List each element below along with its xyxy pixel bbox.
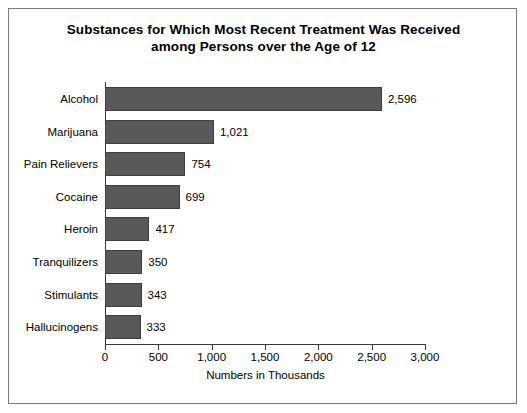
x-axis-tick	[372, 345, 373, 350]
category-label: Tranquilizers	[33, 250, 98, 274]
category-label: Heroin	[64, 217, 98, 241]
x-axis-tick-label: 500	[128, 351, 188, 363]
plot-area: Alcohol2,596Marijuana1,021Pain Relievers…	[105, 83, 425, 344]
bar-value-label: 699	[180, 185, 205, 209]
bar-value-label: 754	[185, 152, 210, 176]
x-axis-tick-label: 2,500	[342, 351, 402, 363]
bar-row: Stimulants343	[105, 279, 425, 312]
x-axis-title: Numbers in Thousands	[105, 369, 426, 381]
bar-value-label: 2,596	[382, 87, 417, 111]
category-label: Pain Relievers	[24, 152, 98, 176]
bar	[105, 250, 142, 274]
x-axis-tick	[425, 345, 426, 350]
chart-title: Substances for Which Most Recent Treatme…	[9, 21, 518, 55]
bar-row: Hallucinogens333	[105, 311, 425, 344]
bar	[105, 283, 142, 307]
bar-row: Cocaine699	[105, 181, 425, 214]
bar-row: Marijuana1,021	[105, 116, 425, 149]
x-axis-tick	[318, 345, 319, 350]
category-label: Stimulants	[44, 283, 98, 307]
category-label: Marijuana	[48, 120, 99, 144]
bar-value-label: 333	[141, 315, 166, 339]
bar-row: Alcohol2,596	[105, 83, 425, 116]
x-axis-tick-label: 3,000	[395, 351, 455, 363]
x-axis-tick-label: 1,000	[182, 351, 242, 363]
bar-row: Pain Relievers754	[105, 148, 425, 181]
bar	[105, 152, 185, 176]
x-axis-tick-label: 2,000	[288, 351, 348, 363]
x-axis-tick	[212, 345, 213, 350]
bar	[105, 120, 214, 144]
bar-value-label: 417	[149, 217, 174, 241]
chart-title-line-1: Substances for Which Most Recent Treatme…	[9, 21, 518, 38]
category-label: Hallucinogens	[26, 315, 98, 339]
category-label: Alcohol	[60, 87, 98, 111]
x-axis-tick-label: 1,500	[235, 351, 295, 363]
chart-title-line-2: among Persons over the Age of 12	[9, 38, 518, 55]
x-axis-tick	[158, 345, 159, 350]
bar-row: Tranquilizers350	[105, 246, 425, 279]
bar	[105, 217, 149, 241]
bar-row: Heroin417	[105, 213, 425, 246]
bar-value-label: 1,021	[214, 120, 249, 144]
x-axis-tick	[265, 345, 266, 350]
x-axis-tick	[105, 345, 106, 350]
bar	[105, 185, 180, 209]
bar	[105, 87, 382, 111]
bar-value-label: 350	[142, 250, 167, 274]
chart-frame: Substances for Which Most Recent Treatme…	[8, 8, 517, 404]
x-axis-tick-label: 0	[75, 351, 135, 363]
bar-value-label: 343	[142, 283, 167, 307]
bar	[105, 315, 141, 339]
category-label: Cocaine	[56, 185, 98, 209]
